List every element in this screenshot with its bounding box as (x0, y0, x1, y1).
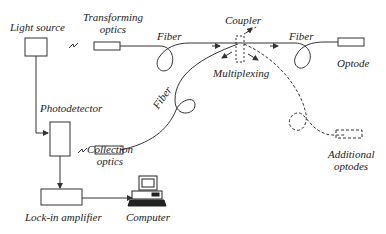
optode-label: Optode (337, 57, 369, 69)
lock-in-amplifier-label: Lock-in amplifier (25, 211, 102, 223)
light-source-label: Light source (10, 21, 65, 33)
transforming-optics-label-1: Transforming (78, 11, 148, 23)
photodetector-box (50, 122, 70, 156)
fiber-additional (244, 44, 345, 135)
coupler-box (236, 36, 244, 62)
computer-label: Computer (126, 211, 170, 223)
fiber-right-label: Fiber (289, 30, 313, 42)
additional-optodes-label-1: Additional (328, 148, 374, 160)
multiplexing-label: Multiplexing (213, 67, 269, 79)
lock-in-amplifier-box (41, 189, 82, 205)
light-beam-icon (69, 43, 78, 48)
fiber-right (240, 42, 338, 68)
coupler-label: Coupler (225, 14, 261, 26)
collection-optics-label-1: Collection (85, 143, 135, 155)
optode-box (338, 38, 364, 46)
light-source-box (25, 38, 47, 56)
fiber-optic-system-diagram (0, 0, 386, 234)
transforming-optics-label-2: optics (78, 23, 148, 35)
fiber-diagonal (120, 44, 238, 150)
computer-icon (128, 176, 166, 206)
additional-optodes-label-2: optodes (328, 160, 374, 172)
collection-optics-label-2: optics (85, 155, 135, 167)
reference-line (36, 56, 48, 133)
transforming-optics-box (94, 42, 120, 50)
photodetector-label: Photodetector (40, 102, 102, 114)
fiber-top-label: Fiber (157, 30, 181, 42)
additional-optodes-box (336, 130, 362, 138)
